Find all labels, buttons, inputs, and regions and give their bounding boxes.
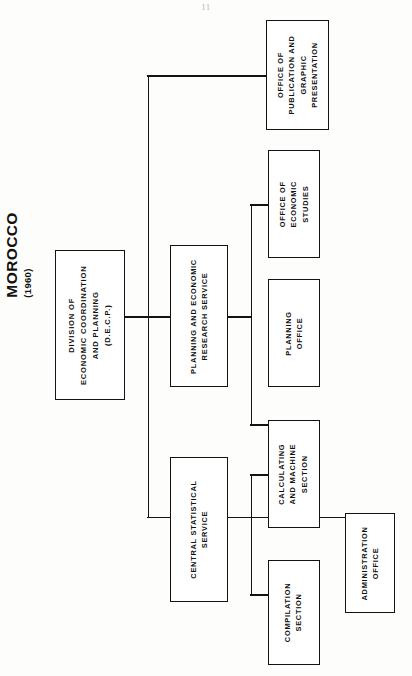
node-compilation-section[interactable]: COMPILATION SECTION — [268, 560, 320, 665]
connector-root-spine — [148, 75, 150, 518]
chart-title: MOROCCO (1960) — [4, 188, 33, 298]
connector-to-planning-office — [250, 424, 268, 426]
node-label: PLANNING AND ECONOMIC RESEARCH SERVICE — [188, 259, 211, 374]
connector-css-spine — [251, 474, 253, 596]
connector-pers-stub — [228, 316, 252, 318]
org-chart-page: 11 MOROCCO (1960) DIVISION OF ECONOMIC C… — [0, 0, 412, 676]
node-label: OFFICE OF ECONOMIC STUDIES — [277, 181, 311, 228]
connector-to-calculating-machine-section — [250, 474, 268, 476]
node-label: ADMINISTRATION OFFICE — [359, 526, 382, 600]
node-label: DIVISION OF ECONOMIC COORDINATION AND PL… — [66, 265, 115, 385]
node-label: CALCULATING AND MACHINE SECTION — [277, 443, 311, 504]
node-central-statistical-service[interactable]: CENTRAL STATISTICAL SERVICE — [170, 457, 228, 602]
connector-pers-spine — [251, 204, 253, 425]
node-label: CENTRAL STATISTICAL SERVICE — [188, 480, 211, 578]
chart-title-year: (1960) — [23, 188, 34, 298]
node-planning-and-economic-research-service[interactable]: PLANNING AND ECONOMIC RESEARCH SERVICE — [170, 245, 228, 387]
node-office-of-publication-and-graphic-presentation[interactable]: OFFICE OF PUBLICATION AND GRAPHIC PRESEN… — [266, 20, 329, 130]
connector-root-stub — [124, 316, 149, 318]
connector-to-planning-research-service — [147, 316, 170, 318]
connector-css-stub — [228, 517, 252, 519]
node-planning-office[interactable]: PLANNING OFFICE — [268, 279, 320, 387]
node-calculating-and-machine-section[interactable]: CALCULATING AND MACHINE SECTION — [268, 420, 320, 528]
node-division-economic-coordination-planning[interactable]: DIVISION OF ECONOMIC COORDINATION AND PL… — [55, 250, 125, 400]
node-label: COMPILATION SECTION — [283, 583, 306, 642]
connector-to-publication-office — [147, 75, 266, 77]
chart-title-country: MOROCCO — [4, 188, 20, 298]
node-label: OFFICE OF PUBLICATION AND GRAPHIC PRESEN… — [275, 36, 321, 115]
page-number: 11 — [0, 2, 412, 12]
node-administration-office[interactable]: ADMINISTRATION OFFICE — [345, 513, 395, 613]
connector-to-central-statistical-service — [147, 517, 170, 519]
node-office-of-economic-studies[interactable]: OFFICE OF ECONOMIC STUDIES — [268, 150, 320, 258]
connector-to-economic-studies — [250, 204, 268, 206]
connector-to-compilation-section — [250, 594, 268, 596]
node-label: PLANNING OFFICE — [283, 311, 306, 356]
